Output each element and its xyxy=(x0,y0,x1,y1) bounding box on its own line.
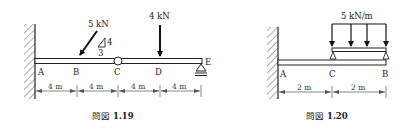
inclined-load-label: 5 kN xyxy=(88,19,109,29)
distributed-load-label: 5 kN/m xyxy=(341,11,373,21)
dimension-label-cb: 2 m xyxy=(351,83,365,92)
upper-beam xyxy=(332,48,386,52)
caption-prefix: 問図 xyxy=(92,111,110,121)
dimension-label-de: 4 m xyxy=(172,82,186,91)
point-label-d: D xyxy=(155,67,162,77)
point-label-e: E xyxy=(205,57,211,67)
point-label-b: B xyxy=(73,67,79,77)
inclined-load-arrow-icon xyxy=(80,31,97,55)
dimension-label-cd: 4 m xyxy=(131,82,145,91)
point-label-c: C xyxy=(114,67,121,77)
point-label-a: A xyxy=(37,67,45,77)
slope-run-label: 3 xyxy=(98,48,103,58)
figure-caption: 問図1.19 xyxy=(92,111,134,121)
beam xyxy=(278,60,386,65)
pin-support-b-icon xyxy=(383,52,389,59)
dimension-label-bc: 4 m xyxy=(89,82,103,91)
caption-number: 1.19 xyxy=(113,111,134,121)
point-label-b: B xyxy=(382,69,388,79)
fixed-wall-icon xyxy=(24,24,35,99)
figure-caption: 問図1.20 xyxy=(306,111,348,121)
slope-rise-label: 4 xyxy=(107,37,112,47)
dimension-line xyxy=(279,86,386,98)
figure-1-19: 5 kN 4 3 4 kN A B C D E 4 m 4 m 4 xyxy=(24,11,211,121)
slope-triangle-icon xyxy=(98,38,105,47)
caption-prefix: 問図 xyxy=(306,111,324,121)
point-label-a: A xyxy=(279,69,287,79)
distributed-load-icon xyxy=(332,24,386,46)
dimension-label-ac: 2 m xyxy=(297,83,311,92)
point-label-c: C xyxy=(329,69,336,79)
pin-support-c-icon xyxy=(330,52,336,59)
hinge-icon xyxy=(114,57,122,65)
caption-number: 1.20 xyxy=(327,111,348,121)
dimension-label-ab: 4 m xyxy=(48,82,62,91)
figure-1-20: 5 kN/m A C B 2 m 2 m 問図1.20 xyxy=(267,11,389,121)
fixed-wall-icon xyxy=(267,27,278,99)
vertical-load-label: 4 kN xyxy=(149,11,170,21)
